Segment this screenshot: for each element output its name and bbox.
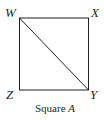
- vertex-label-x: X: [91, 6, 99, 19]
- vertex-label-y: Y: [90, 88, 97, 101]
- figure-caption: Square A: [0, 102, 104, 114]
- vertex-label-w: W: [5, 6, 16, 19]
- caption-prefix: Square: [35, 102, 66, 114]
- vertex-label-z: Z: [6, 88, 13, 101]
- caption-name: A: [68, 102, 75, 114]
- square-a-figure: W X Z Y Square A: [0, 0, 104, 120]
- diagonal-wy: [20, 18, 89, 90]
